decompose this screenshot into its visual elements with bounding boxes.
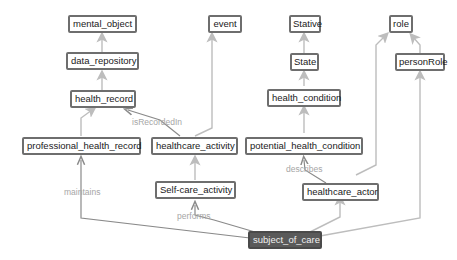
node-state[interactable]: State [290,53,319,71]
node-role[interactable]: role [389,15,413,33]
node-health-record[interactable]: health_record [70,90,136,108]
node-professional-health-record[interactable]: professional_health_record [22,137,141,155]
node-healthcare-actor[interactable]: healthcare_actor [302,183,379,201]
node-stative[interactable]: Stative [289,15,321,33]
node-self-care-activity[interactable]: Self-care_activity [155,181,236,199]
ontology-graph-canvas[interactable]: mental_object data_repository health_rec… [0,0,457,260]
node-health-condition[interactable]: health_condition [267,89,341,107]
node-subject-of-care-selected[interactable]: subject_of_care [248,231,322,249]
node-event[interactable]: event [208,15,242,33]
edge-label-describes: describes [286,164,322,174]
edge-label-performs: performs [177,211,211,221]
edge-label-is-recorded-in: isRecordedIn [132,117,182,127]
graph-edges [0,0,457,260]
node-person-role[interactable]: personRole [395,53,445,71]
node-healthcare-activity[interactable]: healthcare_activity [151,137,238,155]
node-data-repository[interactable]: data_repository [66,52,139,70]
node-mental-object[interactable]: mental_object [68,15,137,33]
edge-label-maintains: maintains [64,187,100,197]
node-potential-health-condition[interactable]: potential_health_condition [245,137,363,155]
